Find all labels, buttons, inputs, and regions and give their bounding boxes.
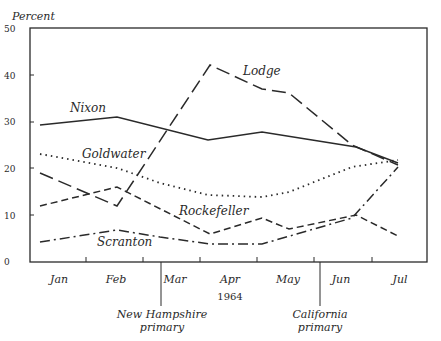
series-lodge bbox=[40, 65, 398, 206]
x-axis-year: 1964 bbox=[217, 291, 242, 302]
y-tick-50: 50 bbox=[4, 24, 16, 34]
y-axis-title: Percent bbox=[11, 10, 55, 23]
x-tick-jul: Jul bbox=[390, 273, 407, 286]
plot-frame bbox=[30, 28, 427, 262]
x-tick-jan: Jan bbox=[48, 273, 68, 286]
nh-primary-label-2: primary bbox=[140, 321, 185, 334]
label-rockefeller: Rockefeller bbox=[178, 204, 250, 218]
ca-primary-label-1: California bbox=[292, 308, 347, 321]
x-tick-may: May bbox=[275, 273, 301, 286]
x-axis-ticks bbox=[86, 257, 372, 262]
y-tick-40: 40 bbox=[4, 71, 16, 81]
nh-primary-label-1: New Hampshire bbox=[116, 308, 208, 321]
ca-primary-label-2: primary bbox=[298, 321, 343, 334]
label-nixon: Nixon bbox=[69, 101, 106, 115]
x-axis: Jan Feb Mar Apr May Jun Jul 1964 bbox=[48, 273, 408, 302]
y-tick-10: 10 bbox=[4, 211, 16, 221]
y-tick-20: 20 bbox=[4, 164, 16, 174]
label-goldwater: Goldwater bbox=[82, 147, 147, 161]
x-tick-apr: Apr bbox=[219, 273, 241, 286]
chart-canvas: Percent 50 40 30 20 10 0 Jan Feb Mar Apr… bbox=[0, 0, 441, 341]
x-tick-feb: Feb bbox=[105, 273, 127, 286]
x-tick-mar: Mar bbox=[162, 273, 187, 286]
label-lodge: Lodge bbox=[242, 64, 281, 78]
x-tick-jun: Jun bbox=[330, 273, 351, 286]
y-tick-30: 30 bbox=[4, 117, 16, 127]
y-tick-0: 0 bbox=[4, 257, 10, 267]
label-scranton: Scranton bbox=[97, 235, 152, 249]
